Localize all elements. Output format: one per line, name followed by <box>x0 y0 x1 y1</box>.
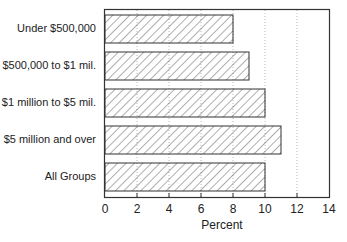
x-axis-label: Percent <box>197 218 247 232</box>
bar <box>105 15 233 43</box>
bar-chart: Under $500,000$500,000 to $1 mil.$1 mill… <box>0 0 347 242</box>
x-tick-label: 0 <box>95 202 115 216</box>
bars <box>105 15 281 191</box>
bar <box>105 126 281 154</box>
tick-marks <box>137 193 297 197</box>
bar <box>105 89 265 117</box>
x-tick-label: 4 <box>159 202 179 216</box>
category-label: All Groups <box>0 170 96 182</box>
x-tick-label: 8 <box>223 202 243 216</box>
category-label: $5 million and over <box>0 133 96 145</box>
bar <box>105 52 249 80</box>
x-tick-label: 2 <box>127 202 147 216</box>
x-tick-label: 12 <box>287 202 307 216</box>
category-label: $500,000 to $1 mil. <box>0 59 96 71</box>
x-tick-label: 14 <box>319 202 339 216</box>
bar <box>105 163 265 191</box>
x-tick-label: 6 <box>191 202 211 216</box>
category-label: Under $500,000 <box>0 22 96 34</box>
category-label: $1 million to $5 mil. <box>0 96 96 108</box>
x-tick-label: 10 <box>255 202 275 216</box>
